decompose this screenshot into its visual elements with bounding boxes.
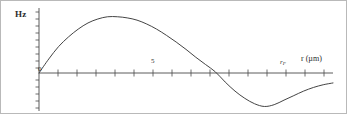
x-tick-label-rf: rF <box>280 58 286 66</box>
x-tick-label-five: 5 <box>151 57 155 65</box>
rf-subscript: F <box>283 61 286 66</box>
y-axis-label: Hz <box>15 9 26 19</box>
data-curve <box>39 17 333 107</box>
y-axis-ticks <box>36 12 40 108</box>
chart-plot <box>1 1 346 113</box>
x-tick-label-origin: 0 <box>38 65 42 73</box>
figure-container: Hz r (µm) 0 5 rF <box>0 0 347 114</box>
x-axis-label: r (µm) <box>301 54 322 63</box>
